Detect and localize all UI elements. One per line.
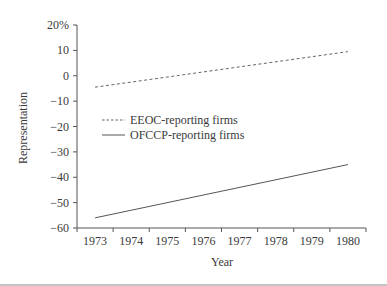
x-axis-label: Year xyxy=(211,255,233,269)
legend-label-ofccp: OFCCP-reporting firms xyxy=(130,128,245,142)
x-tick-label: 1974 xyxy=(119,234,143,248)
y-tick-label: −40 xyxy=(50,170,69,184)
y-tick-label: 10 xyxy=(57,43,69,57)
x-tick-label: 1973 xyxy=(83,234,107,248)
series-line-ofccp xyxy=(95,165,348,218)
y-tick-label: 20% xyxy=(47,18,69,32)
y-tick-label: −30 xyxy=(50,145,69,159)
line-chart: 20%100−10−20−30−40−50−601973197419751976… xyxy=(0,0,387,286)
y-tick-label: 0 xyxy=(63,69,69,83)
series-line-eeoc xyxy=(95,52,348,88)
x-tick-label: 1976 xyxy=(191,234,215,248)
x-tick-label: 1975 xyxy=(155,234,179,248)
y-tick-label: −10 xyxy=(50,94,69,108)
x-tick-label: 1978 xyxy=(264,234,288,248)
x-tick-label: 1980 xyxy=(336,234,360,248)
y-axis-label: Representation xyxy=(16,92,30,164)
y-tick-label: −50 xyxy=(50,196,69,210)
legend-label-eeoc: EEOC-reporting firms xyxy=(130,113,238,127)
x-tick-label: 1977 xyxy=(228,234,252,248)
y-tick-label: −60 xyxy=(50,221,69,235)
x-tick-label: 1979 xyxy=(300,234,324,248)
y-tick-label: −20 xyxy=(50,120,69,134)
legend: EEOC-reporting firms OFCCP-reporting fir… xyxy=(102,113,245,142)
